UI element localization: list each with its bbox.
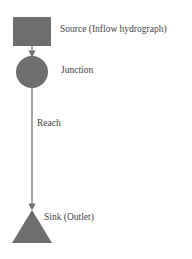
- network-diagram: [0, 0, 192, 259]
- source-node-square[interactable]: [13, 17, 51, 46]
- junction-label: Junction: [61, 65, 93, 75]
- sink-label: Sink (Outlet): [44, 212, 94, 222]
- source-label: Source (Inflow hydrograph): [60, 24, 167, 34]
- junction-node-circle[interactable]: [16, 56, 48, 88]
- reach-label: Reach: [37, 118, 61, 128]
